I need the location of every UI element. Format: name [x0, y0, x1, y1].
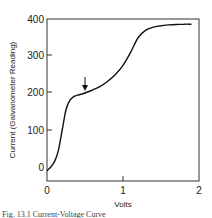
y-axis-title: Current (Galvanometer Reading): [8, 41, 17, 158]
y-tick-300: 300: [27, 50, 44, 61]
y-tick-100: 100: [27, 125, 44, 136]
y-tick-400: 400: [27, 14, 44, 25]
x-tick-1: 1: [120, 185, 126, 196]
data-line: [47, 24, 191, 171]
x-tick-0: 0: [44, 185, 50, 196]
arrow-annotation-icon: [82, 77, 88, 91]
figure-caption: Fig. 13.1 Current-Voltage Curve: [2, 210, 106, 218]
y-tick-0: 0: [38, 162, 44, 173]
chart: 400 300 200 100 0 0 1 2 Volts Current (G…: [0, 0, 212, 218]
x-axis-title: Volts: [114, 200, 131, 209]
y-axis: 400 300 200 100 0: [27, 14, 52, 173]
x-axis: 0 1 2: [44, 176, 202, 196]
x-tick-2: 2: [196, 185, 202, 196]
y-tick-200: 200: [27, 87, 44, 98]
